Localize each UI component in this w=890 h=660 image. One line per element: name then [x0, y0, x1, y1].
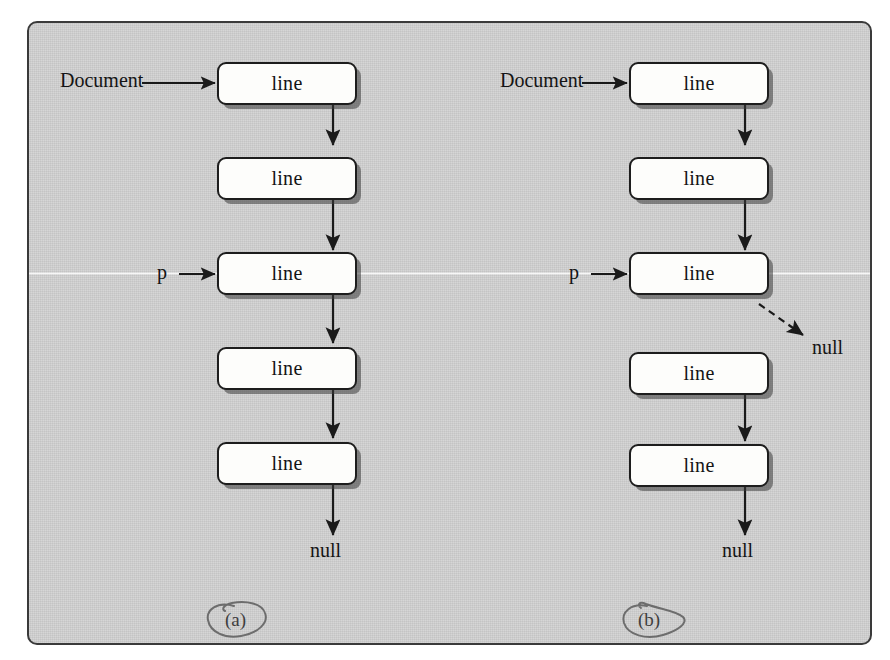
node-label: line [219, 159, 355, 198]
node-line-a-4[interactable]: line [217, 347, 357, 390]
node-label: line [631, 446, 767, 485]
node-line-b-3[interactable]: line [629, 252, 769, 295]
node-line-a-2[interactable]: line [217, 157, 357, 200]
figure-frame: Document p line line line line line null… [27, 21, 872, 645]
node-label: line [631, 64, 767, 103]
node-label: line [631, 254, 767, 293]
node-line-b-2[interactable]: line [629, 157, 769, 200]
label-null-dangling-b: null [812, 336, 843, 359]
node-label: line [631, 159, 767, 198]
figure-canvas: Document p line line line line line null… [0, 0, 890, 660]
node-line-a-5[interactable]: line [217, 442, 357, 485]
node-line-b-1[interactable]: line [629, 62, 769, 105]
node-line-b-5[interactable]: line [629, 444, 769, 487]
node-label: line [631, 354, 767, 393]
node-label: line [219, 444, 355, 483]
label-document-a: Document [60, 69, 143, 92]
panel-tag-b: (b) [638, 609, 660, 631]
label-document-b: Document [500, 69, 583, 92]
node-line-b-4[interactable]: line [629, 352, 769, 395]
label-null-terminator-b: null [722, 539, 753, 562]
label-null-terminator-a: null [310, 539, 341, 562]
node-line-a-1[interactable]: line [217, 62, 357, 105]
node-line-a-3[interactable]: line [217, 252, 357, 295]
label-pointer-p-a: p [157, 261, 167, 284]
panel-tag-a: (a) [225, 609, 246, 631]
link-node3-null-dashed-b [759, 304, 803, 335]
node-label: line [219, 64, 355, 103]
node-label: line [219, 254, 355, 293]
label-pointer-p-b: p [569, 261, 579, 284]
node-label: line [219, 349, 355, 388]
